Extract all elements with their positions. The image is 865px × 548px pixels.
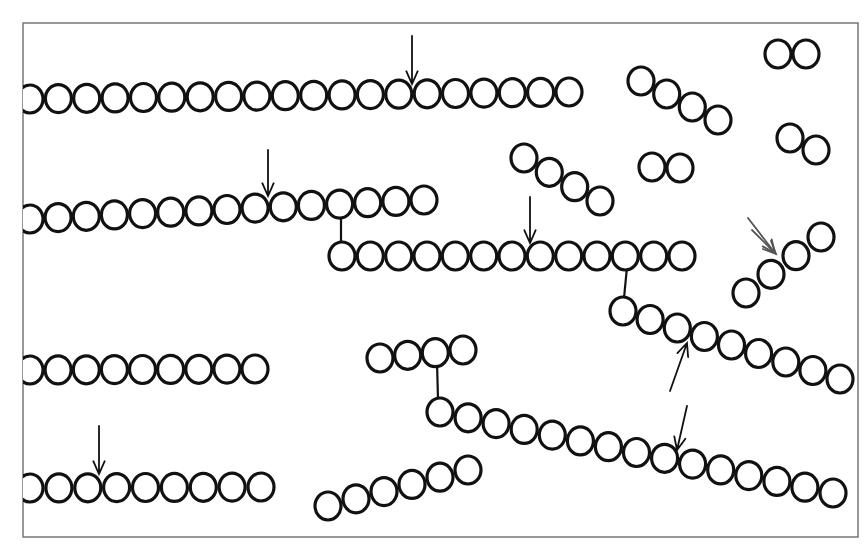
polymer-chain-diagram	[0, 0, 865, 548]
bead-circle	[159, 83, 185, 111]
bead-circle	[455, 456, 481, 484]
bead-circle	[556, 78, 582, 106]
chain-bottom-six	[315, 456, 481, 520]
bead-circle	[74, 84, 100, 112]
bead-circle	[708, 456, 734, 484]
bead-circle	[427, 463, 453, 491]
pair-top-right	[765, 40, 819, 68]
bead-circle	[652, 444, 678, 472]
bead-circle	[499, 242, 525, 270]
bead-circle	[272, 82, 298, 110]
chain-top-long	[17, 78, 582, 113]
bead-circle	[820, 479, 846, 507]
bead-circle	[471, 79, 497, 107]
bead-circle	[612, 242, 638, 270]
bead-circle	[764, 467, 790, 495]
bead-circle	[562, 173, 588, 201]
bead-circle	[75, 474, 101, 502]
bead-circle	[705, 106, 731, 134]
bead-circle	[17, 205, 43, 233]
bead-circle	[783, 242, 809, 270]
bead-circle	[669, 242, 695, 270]
bead-circle	[556, 242, 582, 270]
bead-circle	[610, 297, 636, 325]
bead-circle	[628, 67, 654, 95]
bead-circle	[158, 198, 184, 226]
bead-circle	[442, 242, 468, 270]
pair-middle	[639, 153, 693, 182]
bead-circle	[443, 80, 469, 108]
chain-long-diag	[427, 398, 846, 507]
bead-circle	[758, 260, 784, 288]
bead-circle	[186, 197, 212, 225]
bead-circle	[244, 82, 270, 110]
bead-circle	[102, 84, 128, 112]
bead-circle	[329, 242, 355, 270]
bead-circle	[808, 223, 834, 251]
arrow-long-diag-icon	[674, 406, 687, 450]
bead-circle	[719, 331, 745, 359]
chain-small-four	[367, 336, 476, 372]
bead-circle	[680, 450, 706, 478]
bead-circle	[765, 40, 791, 68]
bead-circle	[242, 355, 268, 383]
arrow-diag-up-icon	[670, 343, 688, 391]
chain-bottom-left	[17, 473, 274, 502]
bead-circle	[471, 242, 497, 270]
bead-circle	[527, 242, 553, 270]
bead-circle	[101, 356, 127, 384]
bead-circle	[587, 187, 613, 215]
bead-circle	[355, 189, 381, 217]
bead-circle	[536, 158, 562, 186]
chain-four-a	[628, 67, 731, 134]
bead-circle	[46, 474, 72, 502]
bead-circle	[219, 473, 245, 501]
bead-circle	[386, 242, 412, 270]
bead-circle	[329, 81, 355, 109]
bead-circle	[595, 433, 621, 461]
bead-circle	[637, 306, 663, 334]
bead-circle	[371, 478, 397, 506]
bead-circle	[584, 242, 610, 270]
bead-circle	[679, 93, 705, 121]
pair-right	[777, 124, 829, 164]
arrow-second-chain-icon	[262, 150, 273, 196]
bead-circle	[248, 473, 274, 501]
bead-circle	[733, 279, 759, 307]
bead-circle	[17, 356, 43, 384]
bead-circle	[45, 85, 71, 113]
bead-circle	[45, 204, 71, 232]
bead-circle	[414, 80, 440, 108]
bead-circle	[746, 340, 772, 368]
arrow-top-chain-icon	[406, 36, 417, 84]
bead-circle	[383, 187, 409, 215]
bead-circle	[511, 144, 537, 172]
bead-circle	[133, 474, 159, 502]
chain-four-rising	[733, 223, 834, 307]
bead-circle	[186, 355, 212, 383]
chain-third	[329, 242, 695, 270]
bead-circle	[17, 474, 43, 502]
bead-circle	[414, 242, 440, 270]
chain-diag-right	[610, 297, 853, 393]
bead-circle	[158, 355, 184, 383]
chain-mid-left	[17, 355, 268, 384]
chain-second	[17, 186, 437, 233]
bead-circle	[411, 186, 437, 214]
bead-circle	[664, 314, 690, 342]
bead-circle	[45, 356, 71, 384]
bead-circle	[800, 357, 826, 385]
bead-circle	[357, 242, 383, 270]
bead-circle	[793, 40, 819, 68]
branch-link	[624, 267, 627, 298]
bead-circle	[511, 415, 537, 443]
bead-circle	[641, 242, 667, 270]
bead-circle	[386, 80, 412, 108]
bead-circle	[639, 153, 665, 181]
bead-circle	[73, 356, 99, 384]
bead-circle	[528, 78, 554, 106]
bead-circle	[777, 124, 803, 152]
bead-circle	[214, 355, 240, 383]
bead-circle	[624, 439, 650, 467]
bead-circle	[691, 323, 717, 351]
